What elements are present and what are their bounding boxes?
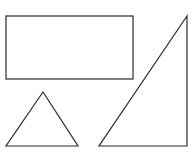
equilateral-triangle-shape xyxy=(6,92,78,146)
right-triangle-shape xyxy=(99,16,187,146)
shapes-canvas xyxy=(0,0,195,158)
rectangle-shape xyxy=(6,16,133,79)
